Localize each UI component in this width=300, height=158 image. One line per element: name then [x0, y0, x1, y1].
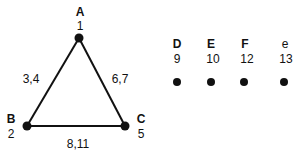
edge-b-c-label: 8,11: [67, 138, 89, 150]
vertex-c-value: 5: [138, 128, 145, 140]
point-e-lower-value: 13: [279, 53, 292, 65]
point-e-value: 10: [206, 53, 219, 65]
point-d-value: 9: [174, 53, 181, 65]
diagram-canvas: [0, 0, 300, 158]
vertex-b-name: B: [7, 113, 16, 125]
edge-a-c-label: 6,7: [112, 73, 129, 85]
vertex-a-dot: [75, 34, 84, 43]
vertex-c-name: C: [137, 113, 146, 125]
edge-a-b-label: 3,4: [23, 73, 40, 85]
point-e-lower-name: e: [282, 38, 289, 50]
point-f-dot: [240, 78, 248, 86]
point-e-dot: [207, 78, 215, 86]
vertex-a-name: A: [76, 6, 85, 18]
point-d-name: D: [173, 38, 182, 50]
vertex-b-dot: [23, 122, 32, 131]
point-e-name: E: [207, 38, 215, 50]
vertex-b-value: 2: [8, 128, 15, 140]
point-d-dot: [173, 78, 181, 86]
vertex-a-value: 1: [77, 20, 84, 32]
vertex-c-dot: [121, 122, 130, 131]
point-f-value: 12: [240, 53, 253, 65]
point-f-name: F: [241, 38, 248, 50]
point-e-lower-dot: [280, 78, 288, 86]
